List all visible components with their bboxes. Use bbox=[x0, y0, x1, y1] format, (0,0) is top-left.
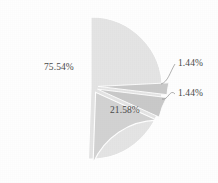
pie-label-22: 21.58% bbox=[110, 105, 140, 115]
pie-label-75: 75.54% bbox=[44, 62, 74, 72]
pie-label-thin-2: 1.44% bbox=[178, 88, 203, 98]
leader-line-thin-1 bbox=[161, 64, 175, 84]
pie-label-thin-1: 1.44% bbox=[178, 58, 203, 68]
pie-chart: 75.54% 21.58% 1.44% 1.44% bbox=[0, 0, 218, 183]
